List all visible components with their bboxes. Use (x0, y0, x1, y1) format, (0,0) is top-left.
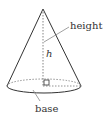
cone-diagram: height h base (0, 0, 109, 115)
base-label: base (35, 103, 58, 114)
h-label: h (46, 48, 52, 59)
right-angle-marker (44, 80, 49, 85)
base-ellipse-front (7, 86, 81, 93)
height-pointer (44, 27, 69, 42)
height-label: height (70, 20, 102, 31)
base-pointer (33, 90, 40, 101)
cone-left-side (7, 9, 43, 86)
